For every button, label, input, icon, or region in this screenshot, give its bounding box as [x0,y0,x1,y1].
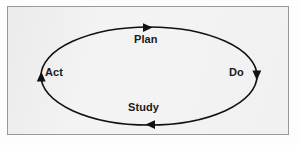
figure-root: Plan Do Study Act [0,0,299,145]
stage-label-do: Do [229,66,244,78]
stage-label-plan: Plan [134,33,158,45]
plan-arrowhead-icon [143,23,153,32]
stage-label-act: Act [45,66,63,78]
stage-label-study: Study [128,101,159,113]
do-arrowhead-icon [252,71,261,81]
study-arrowhead-icon [146,120,156,129]
